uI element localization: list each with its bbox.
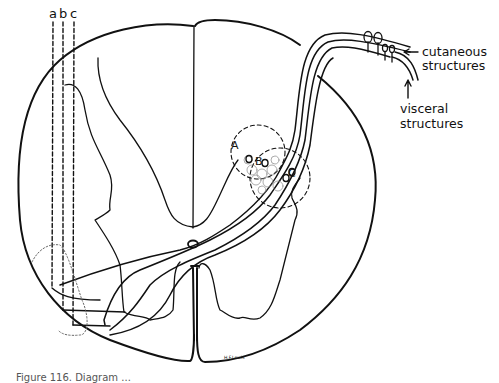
posterior-median-septum [193, 26, 194, 228]
outer-contour-left [18, 24, 194, 361]
grey-matter-left-lateral [65, 84, 180, 320]
label-tract-b: b [59, 6, 67, 21]
dorsal-root-fiber-2 [104, 40, 410, 325]
label-tract-c: c [70, 6, 77, 21]
illustrator-signature: H.F.Lewis [224, 355, 245, 360]
figure-caption-partial: Figure 116. Diagram ... [16, 372, 131, 383]
anterior-median-fissure [191, 266, 199, 340]
grey-matter-left-dorsal [98, 58, 238, 227]
dotted-motor-region [32, 245, 87, 336]
label-visceral-1: visceral [400, 101, 448, 116]
label-region-A: A [231, 139, 239, 152]
grey-matter-right [199, 178, 300, 319]
label-cutaneous-2: structures [422, 58, 485, 73]
tract-a [52, 22, 53, 288]
visceral-fiber [392, 52, 418, 80]
outer-contour-right [195, 20, 300, 45]
tract-terminals [52, 288, 125, 326]
dorsal-root-fiber-3 [110, 47, 390, 330]
cutaneous-arrow [404, 49, 418, 55]
label-cutaneous-1: cutaneous [422, 44, 487, 59]
label-region-B: B [255, 155, 263, 168]
descending-tracts [52, 22, 74, 325]
label-region-C: C [288, 167, 296, 180]
label-tract-a: a [49, 6, 57, 21]
outer-contour-right-lower [197, 76, 376, 362]
label-visceral-2: structures [400, 116, 463, 131]
visceral-arrow-shaft [405, 80, 411, 98]
